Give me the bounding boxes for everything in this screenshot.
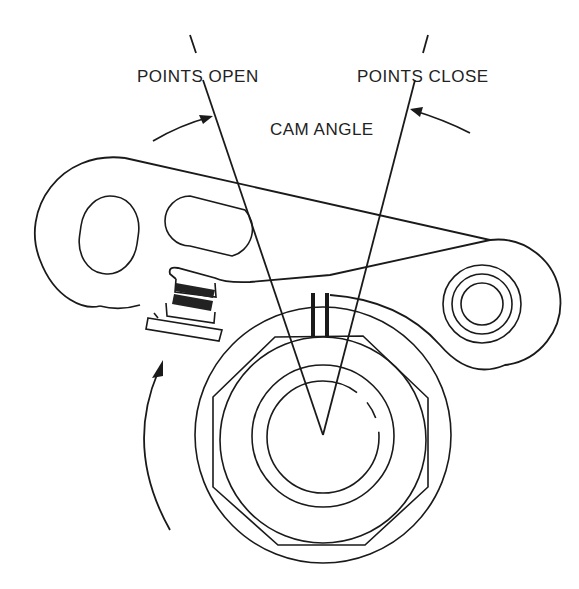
contact-points	[146, 279, 222, 341]
pivot-ring-outer	[443, 265, 521, 343]
rotation-arrow-head	[152, 360, 163, 378]
cam-hub-inner	[267, 381, 379, 493]
cam-angle-lines	[190, 35, 428, 435]
points-close-line-top	[423, 35, 428, 53]
arrow-open-head	[199, 115, 213, 124]
spring-arm	[170, 240, 490, 282]
breaker-arm	[35, 157, 561, 369]
rotation-arrow-shaft	[144, 372, 170, 530]
cam-hub-outer	[252, 365, 394, 507]
arm-outline-right	[125, 158, 560, 370]
pivot-ring-inner	[461, 283, 503, 325]
contact-plate	[146, 318, 222, 341]
points-open-line-top	[190, 35, 196, 53]
contact-plate-tab	[154, 313, 158, 318]
label-points-close: POINTS CLOSE	[357, 67, 489, 86]
rotation-arrow	[144, 360, 170, 530]
arm-outline-bottom	[100, 305, 140, 308]
pivot-post	[443, 265, 521, 343]
rubbing-block	[313, 293, 327, 337]
slot-hole-right	[165, 196, 252, 256]
arrow-close-head	[410, 107, 423, 117]
label-cam-angle: CAM ANGLE	[270, 120, 374, 139]
cam-angle-diagram: POINTS OPEN POINTS CLOSE CAM ANGLE	[0, 0, 579, 589]
cam-lobe-circle	[220, 337, 426, 543]
arrow-open-shaft	[153, 117, 210, 141]
slot-hole-left	[75, 192, 143, 277]
label-points-open: POINTS OPEN	[137, 67, 259, 86]
